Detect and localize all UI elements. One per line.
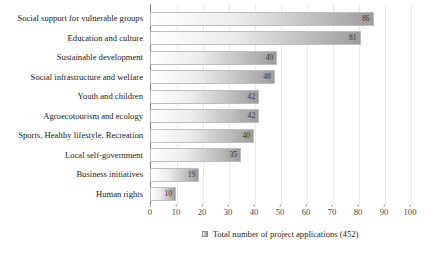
category-label: Agroecotourism and ecology (0, 112, 150, 121)
category-label: Sustainable development (0, 53, 150, 62)
category-label: Social infrastructure and welfare (0, 73, 150, 82)
bar: 49 (150, 51, 277, 65)
x-axis-tick: 30 (224, 208, 233, 217)
x-axis-tick: 60 (302, 208, 311, 217)
bar: 86 (150, 12, 374, 26)
bar: 40 (150, 129, 254, 143)
plot-area: Social support for vulnerable groups 86 … (0, 0, 438, 204)
bar-row: Education and culture 81 (0, 29, 438, 49)
bar-track: 40 (150, 129, 410, 143)
bar-track: 42 (150, 109, 410, 123)
bar-track: 19 (150, 168, 410, 182)
x-axis-tick: 0 (148, 208, 152, 217)
x-axis-tick: 10 (172, 208, 181, 217)
category-label: Social support for vulnerable groups (0, 14, 150, 23)
bar: 81 (150, 31, 361, 45)
bar-track: 10 (150, 187, 410, 201)
bar-row: Agroecotourism and ecology 42 (0, 107, 438, 127)
bar: 35 (150, 148, 241, 162)
x-axis-tick: 50 (276, 208, 285, 217)
legend-label: Total number of project applications (45… (213, 230, 359, 239)
x-axis-tick: 100 (404, 208, 417, 217)
bar-value-label: 81 (349, 34, 360, 42)
bar: 19 (150, 168, 199, 182)
legend: Total number of project applications (45… (150, 230, 410, 239)
bar-track: 49 (150, 51, 410, 65)
bar-row: Human rights 10 (0, 185, 438, 205)
category-label: Business initiatives (0, 170, 150, 179)
bar-value-label: 48 (263, 73, 274, 81)
bar-track: 42 (150, 90, 410, 104)
bar-row: Social infrastructure and welfare 48 (0, 68, 438, 88)
bar-row: Social support for vulnerable groups 86 (0, 9, 438, 29)
category-label: Sports, Healthy lifestyle, Recreation (0, 131, 150, 140)
legend-marker-icon (202, 231, 208, 237)
bar: 48 (150, 70, 275, 84)
x-axis-tick: 40 (250, 208, 259, 217)
bar-value-label: 40 (242, 132, 253, 140)
category-label: Local self-government (0, 151, 150, 160)
bar-row: Local self-government 35 (0, 146, 438, 166)
bar-value-label: 86 (362, 15, 373, 23)
bar-value-label: 35 (229, 151, 240, 159)
x-axis: 0 10 20 30 40 50 60 70 80 90 100 (150, 205, 410, 219)
bar-row: Business initiatives 19 (0, 165, 438, 185)
bar-track: 81 (150, 31, 410, 45)
x-axis-tick: 80 (354, 208, 363, 217)
bar-value-label: 42 (248, 112, 259, 120)
bar-row: Youth and children 42 (0, 87, 438, 107)
bar: 10 (150, 187, 176, 201)
bar-value-label: 10 (164, 190, 175, 198)
category-label: Youth and children (0, 92, 150, 101)
category-label: Human rights (0, 190, 150, 199)
bar-value-label: 19 (188, 171, 199, 179)
bar-row: Sustainable development 49 (0, 48, 438, 68)
x-axis-tick: 70 (328, 208, 337, 217)
bar-track: 48 (150, 70, 410, 84)
bar-value-label: 42 (248, 93, 259, 101)
bar-chart: Social support for vulnerable groups 86 … (0, 0, 438, 255)
bar-row: Sports, Healthy lifestyle, Recreation 40 (0, 126, 438, 146)
x-axis-tick: 90 (380, 208, 389, 217)
bar-value-label: 49 (266, 54, 277, 62)
bar-track: 86 (150, 12, 410, 26)
bar-track: 35 (150, 148, 410, 162)
x-axis-tick: 20 (198, 208, 207, 217)
category-label: Education and culture (0, 34, 150, 43)
bar: 42 (150, 109, 259, 123)
bar: 42 (150, 90, 259, 104)
